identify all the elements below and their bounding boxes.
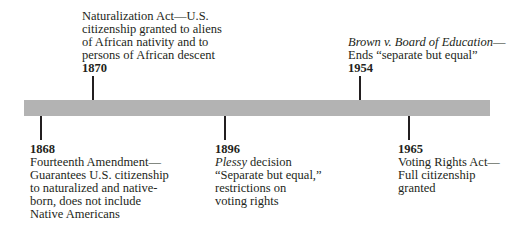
event-1954-case-name: Brown v. Board of Education	[348, 35, 493, 49]
event-1870-year: 1870	[82, 62, 222, 75]
event-1954-dash: —	[493, 35, 506, 49]
tick-1954	[359, 76, 361, 100]
tick-1965	[408, 116, 410, 140]
event-1896-line-4: voting rights	[215, 195, 322, 208]
tick-1896	[224, 116, 226, 140]
event-1896: 1896 Plessy decision “Separate but equal…	[215, 143, 322, 208]
event-1870: Naturalization Act—U.S. citizenship gran…	[82, 10, 222, 75]
event-1954-year: 1954	[348, 62, 506, 75]
event-1965-line-3: granted	[398, 182, 500, 195]
tick-1870	[92, 76, 94, 100]
event-1868-line-5: Native Americans	[30, 208, 169, 221]
event-1896-case-name: Plessy	[215, 155, 247, 169]
event-1965: 1965 Voting Rights Act— Full citizenship…	[398, 143, 500, 195]
event-1896-decision: decision	[247, 155, 292, 169]
timeline-bar	[24, 100, 490, 116]
tick-1868	[40, 116, 42, 140]
event-1868: 1868 Fourteenth Amendment— Guarantees U.…	[30, 143, 169, 221]
event-1954: Brown v. Board of Education— Ends “separ…	[348, 36, 506, 75]
